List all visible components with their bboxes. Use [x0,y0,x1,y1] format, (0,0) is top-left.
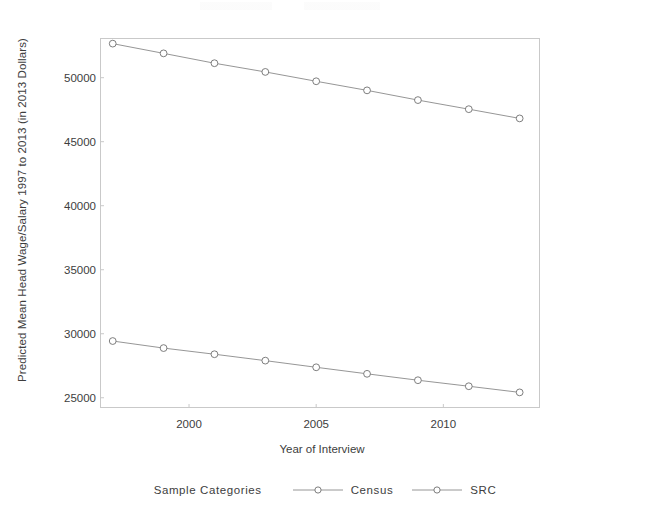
x-axis-tick-label: 2000 [176,418,202,430]
data-point-marker [109,338,116,345]
legend-label-census: Census [351,484,394,496]
data-point-marker [313,364,320,371]
data-point-marker [415,377,422,384]
x-axis-tick-label: 2005 [303,418,329,430]
data-point-marker [465,106,472,113]
data-point-marker [516,115,523,122]
legend-title: Sample Categories [154,484,262,496]
legend-entry-src[interactable]: SRC [411,484,496,496]
legend-entry-census[interactable]: Census [292,484,394,496]
legend-marker-line-icon [411,485,463,495]
data-point-marker [262,357,269,364]
series-src [109,338,523,396]
x-axis-title: Year of Interview [279,443,364,455]
plot-area [100,38,540,408]
legend-label-src: SRC [470,484,496,496]
data-point-marker [415,97,422,104]
x-axis-tick-label: 2010 [431,418,457,430]
data-point-marker [211,60,218,67]
data-point-marker [516,389,523,396]
data-point-marker [211,351,218,358]
data-point-marker [465,383,472,390]
data-point-marker [364,87,371,94]
data-point-marker [109,40,116,47]
series-census [109,40,523,122]
data-point-marker [262,69,269,76]
chart-legend: Sample Categories Census SRC [0,478,650,502]
data-point-marker [160,50,167,57]
chart-figure: Predicted Mean Head Wage/Salary 1997 to … [0,0,650,514]
data-point-marker [364,370,371,377]
plot-svg [100,38,540,408]
data-point-marker [313,78,320,85]
legend-marker-line-icon [292,485,344,495]
plot-frame [101,39,540,408]
data-point-marker [160,345,167,352]
